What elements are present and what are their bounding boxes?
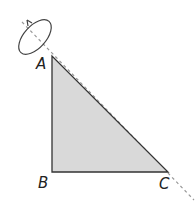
diagram-canvas: A B C bbox=[0, 0, 195, 203]
vertex-label-b: B bbox=[38, 176, 48, 191]
vertex-label-a: A bbox=[36, 57, 46, 72]
rotation-ellipse bbox=[13, 14, 57, 60]
vertex-label-c: C bbox=[159, 177, 169, 192]
triangle-rotation-figure bbox=[0, 0, 195, 203]
triangle-abc bbox=[52, 56, 168, 172]
